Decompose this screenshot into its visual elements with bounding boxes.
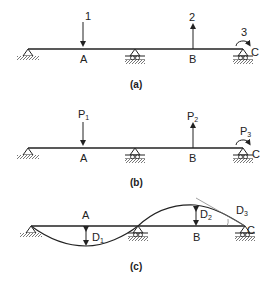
beam-diagram: 1 2 3 A B C (a) P1 P2 P3 A B C (b)	[0, 0, 272, 284]
point-a-label: A	[82, 209, 90, 221]
panel-a: 1 2 3 A B C (a)	[17, 10, 259, 90]
rotation-d3-label: D3	[236, 204, 248, 217]
load-p2-label: P2	[187, 110, 198, 123]
load-2-label: 2	[189, 11, 195, 23]
pin-support-icon	[17, 148, 39, 159]
point-b-label: B	[189, 152, 196, 164]
deflection-d1-label: D1	[92, 231, 104, 244]
roller-support-icon	[233, 49, 253, 64]
point-b-label: B	[193, 231, 200, 243]
point-a-label: A	[80, 152, 88, 164]
roller-support-icon	[128, 226, 148, 241]
load-p3-label: P3	[240, 125, 251, 138]
point-b-label: B	[189, 53, 196, 65]
roller-support-icon	[125, 49, 145, 64]
point-c-label: C	[251, 46, 259, 58]
pin-support-icon	[17, 49, 39, 60]
panel-b: P1 P2 P3 A B C (b)	[17, 108, 260, 188]
load-1-label: 1	[85, 10, 91, 22]
caption-a: (a)	[130, 79, 142, 90]
point-c-label: C	[247, 224, 255, 236]
deflection-d2-label: D2	[200, 208, 212, 221]
caption-b: (b)	[130, 177, 143, 188]
angle-arc-icon	[227, 219, 228, 226]
panel-c: D1 D2 D3 A B C (c)	[20, 198, 255, 272]
roller-support-icon	[125, 148, 145, 163]
moment-arrow-icon	[236, 140, 249, 145]
caption-c: (c)	[130, 261, 142, 272]
roller-support-icon	[233, 148, 253, 163]
point-c-label: C	[252, 148, 260, 160]
point-a-label: A	[80, 53, 88, 65]
load-p1-label: P1	[78, 108, 89, 121]
moment-arrow-icon	[236, 41, 249, 46]
load-3-label: 3	[241, 26, 247, 38]
